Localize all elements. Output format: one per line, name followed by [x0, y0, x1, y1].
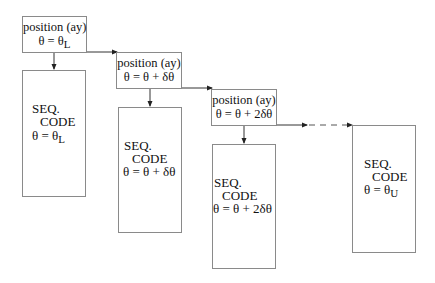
theta-expression: θ = θ + 2δθ — [213, 202, 272, 215]
position-box-1: position (ay) θ = θL — [22, 16, 87, 53]
theta-expression: θ = θU — [364, 183, 398, 196]
seq-code-box-2: SEQ. CODE θ = θ + δθ — [118, 107, 182, 233]
position-box-3: position (ay) θ = θ + 2δθ — [211, 89, 277, 126]
seq-code-box-1: SEQ. CODE θ = θL — [22, 70, 86, 197]
position-box-title: position (ay) — [212, 93, 276, 107]
position-box-2: position (ay) θ = θ + δθ — [116, 52, 182, 89]
seq-code-box-3: SEQ. CODE θ = θ + 2δθ — [212, 144, 276, 269]
theta-expression: θ = θ + δθ — [123, 165, 175, 178]
seq-code-box-final: SEQ. CODE θ = θU — [352, 125, 416, 253]
position-box-title: position (ay) — [23, 20, 86, 34]
position-box-title: position (ay) — [117, 56, 181, 70]
position-box-theta: θ = θ + δθ — [117, 70, 181, 84]
position-box-theta: θ = θ + 2δθ — [212, 107, 276, 121]
code-label: CODE — [40, 115, 75, 128]
theta-expression: θ = θL — [32, 129, 65, 142]
position-box-theta: θ = θL — [23, 34, 86, 48]
